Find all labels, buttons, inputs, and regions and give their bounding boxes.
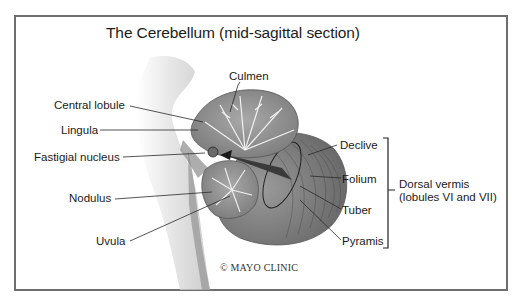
label-folium: Folium <box>342 173 377 186</box>
label-lingula: Lingula <box>61 124 98 137</box>
brainstem-shape <box>137 56 210 290</box>
label-declive: Declive <box>340 139 378 152</box>
anterior-lobe <box>191 90 298 158</box>
label-nodulus: Nodulus <box>69 192 111 205</box>
label-dorsal-vermis-lobules: (lobules VI and VII) <box>399 191 497 204</box>
dorsal-vermis-bracket <box>383 138 395 248</box>
copyright-notice: © MAYO CLINIC <box>220 262 298 273</box>
label-tuber: Tuber <box>342 204 372 217</box>
label-pyramis: Pyramis <box>342 235 384 248</box>
inferior-lobe <box>202 161 259 219</box>
fastigial-nucleus-dot <box>208 147 218 157</box>
label-central-lobule: Central lobule <box>54 99 125 112</box>
label-dorsal-vermis: Dorsal vermis <box>399 178 469 191</box>
label-culmen: Culmen <box>229 70 269 83</box>
diagram-title: The Cerebellum (mid-sagittal section) <box>106 24 360 42</box>
label-uvula: Uvula <box>96 235 125 248</box>
label-fastigial-nucleus: Fastigial nucleus <box>34 151 120 164</box>
